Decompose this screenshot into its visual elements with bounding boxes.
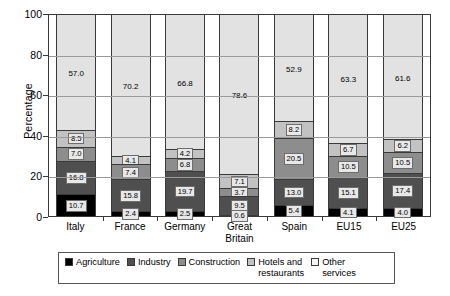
x-tick-label: EU25 (376, 221, 431, 244)
bar-segment[interactable]: 6.7 (329, 143, 367, 157)
gridline (49, 56, 430, 57)
legend-label: Agriculture (76, 257, 120, 268)
bar-segment[interactable]: 7.0 (57, 147, 95, 161)
plot-area: 57.08.57.016.810.770.24.17.415.82.466.84… (48, 14, 431, 217)
bar-segment[interactable]: 10.5 (384, 152, 422, 173)
bar-column: 57.08.57.016.810.7 (49, 15, 103, 216)
bar-segment[interactable]: 8.2 (275, 121, 313, 137)
bar-segment[interactable]: 5.4 (275, 205, 313, 216)
y-tick-label: 100 (4, 8, 42, 20)
stacked-bar[interactable]: 66.84.26.819.72.5 (165, 15, 205, 216)
x-tick-label: GreatBritain (212, 221, 267, 244)
y-tick-mark (43, 14, 48, 15)
legend-label: Construction (189, 257, 241, 268)
bar-segment[interactable]: 66.8 (166, 15, 204, 149)
y-tick-mark (43, 217, 48, 218)
x-tick-label-line: Germany (157, 221, 212, 233)
bar-segment[interactable]: 10.7 (57, 194, 95, 216)
bar-segment[interactable]: 2.5 (166, 211, 204, 216)
bar-segment[interactable]: 4.0 (384, 208, 422, 216)
segment-value-label: 20.5 (284, 153, 305, 165)
legend-label: Hotels and restaurants (258, 257, 304, 278)
x-axis-labels: ItalyFranceGermanyGreatBritainSpainEU15E… (48, 221, 431, 244)
legend-item[interactable]: Construction (178, 257, 241, 268)
legend-label: Other services (322, 257, 356, 278)
bar-segment[interactable]: 0.6 (220, 215, 258, 216)
bar-segment[interactable]: 57.0 (57, 15, 95, 130)
segment-value-label: 19.7 (175, 186, 196, 198)
y-tick-label: 80 (4, 49, 42, 61)
x-tick-label-line: EU15 (322, 221, 377, 233)
segment-value-label: 66.8 (175, 79, 195, 89)
legend-swatch (127, 258, 135, 266)
stacked-bar[interactable]: 63.36.710.515.14.1 (328, 15, 368, 216)
legend-swatch (178, 258, 186, 266)
x-tick-label: Germany (157, 221, 212, 244)
bar-segment[interactable]: 4.1 (329, 208, 367, 216)
y-tick-mark (43, 136, 48, 137)
y-tick-mark (43, 55, 48, 56)
bar-segment[interactable]: 70.2 (112, 15, 150, 156)
segment-value-label: 6.8 (177, 159, 194, 171)
bar-segment[interactable]: 13.0 (275, 179, 313, 205)
bar-column: 70.24.17.415.82.4 (103, 15, 157, 216)
stacked-bar[interactable]: 52.98.220.513.05.4 (274, 15, 314, 216)
stacked-bar[interactable]: 70.24.17.415.82.4 (111, 15, 151, 216)
legend-swatch (247, 258, 255, 266)
segment-value-label: 52.9 (284, 65, 304, 75)
segment-value-label: 61.6 (393, 74, 413, 84)
x-tick-label: EU15 (322, 221, 377, 244)
bar-segment[interactable]: 78.6 (220, 15, 258, 174)
segment-value-label: 5.4 (286, 205, 303, 217)
segment-value-label: 15.8 (120, 190, 141, 202)
legend-item[interactable]: Other services (311, 257, 356, 278)
legend-label: Industry (138, 257, 171, 268)
gridline (49, 177, 430, 178)
y-tick-label: 20 (4, 170, 42, 182)
segment-value-label: 57.0 (66, 69, 86, 79)
segment-value-label: 6.7 (340, 144, 357, 156)
segment-value-label: 8.5 (68, 133, 85, 145)
stacked-bar[interactable]: 57.08.57.016.810.7 (56, 15, 96, 216)
legend-swatch (311, 258, 319, 266)
stacked-bar[interactable]: 78.67.13.79.50.6 (219, 15, 259, 216)
gridline (49, 137, 430, 138)
x-tick-label: Italy (48, 221, 103, 244)
bar-segment[interactable]: 2.4 (112, 211, 150, 216)
bar-segment[interactable]: 63.3 (329, 15, 367, 143)
bar-segment[interactable]: 3.7 (220, 188, 258, 196)
segment-value-label: 6.2 (394, 140, 411, 152)
bar-segment[interactable]: 15.8 (112, 179, 150, 211)
x-tick-label: France (103, 221, 158, 244)
bar-segment[interactable]: 10.5 (329, 156, 367, 177)
bar-segment[interactable]: 20.5 (275, 138, 313, 179)
bar-segment[interactable]: 52.9 (275, 15, 313, 121)
segment-value-label: 10.7 (66, 200, 87, 212)
segment-value-label: 10.5 (392, 157, 413, 169)
bar-group: 57.08.57.016.810.770.24.17.415.82.466.84… (49, 15, 430, 216)
x-tick-label-line: Italy (48, 221, 103, 233)
legend-item[interactable]: Hotels and restaurants (247, 257, 304, 278)
segment-value-label: 8.2 (286, 124, 303, 136)
bar-column: 66.84.26.819.72.5 (158, 15, 212, 216)
legend-item[interactable]: Industry (127, 257, 171, 268)
x-tick-label-line: France (103, 221, 158, 233)
segment-value-label: 17.4 (392, 185, 413, 197)
y-tick-label: 40 (4, 130, 42, 142)
bar-segment[interactable]: 4.2 (166, 149, 204, 158)
bar-segment[interactable]: 15.1 (329, 177, 367, 207)
bar-segment[interactable]: 6.2 (384, 139, 422, 152)
stacked-bar[interactable]: 61.66.210.517.44.0 (383, 15, 423, 216)
bar-segment[interactable]: 4.1 (112, 156, 150, 164)
chart-figure: Percentage 57.08.57.016.810.770.24.17.41… (0, 0, 450, 296)
bar-segment[interactable]: 6.8 (166, 158, 204, 172)
segment-value-label: 7.0 (68, 148, 85, 160)
x-tick-label: Spain (267, 221, 322, 244)
bar-segment[interactable]: 61.6 (384, 15, 422, 139)
bar-segment[interactable]: 8.5 (57, 130, 95, 147)
legend-item[interactable]: Agriculture (65, 257, 120, 268)
legend-swatch (65, 258, 73, 266)
bar-column: 63.36.710.515.14.1 (321, 15, 375, 216)
y-tick-label: 60 (4, 89, 42, 101)
x-tick-label-line: Great (212, 221, 267, 233)
